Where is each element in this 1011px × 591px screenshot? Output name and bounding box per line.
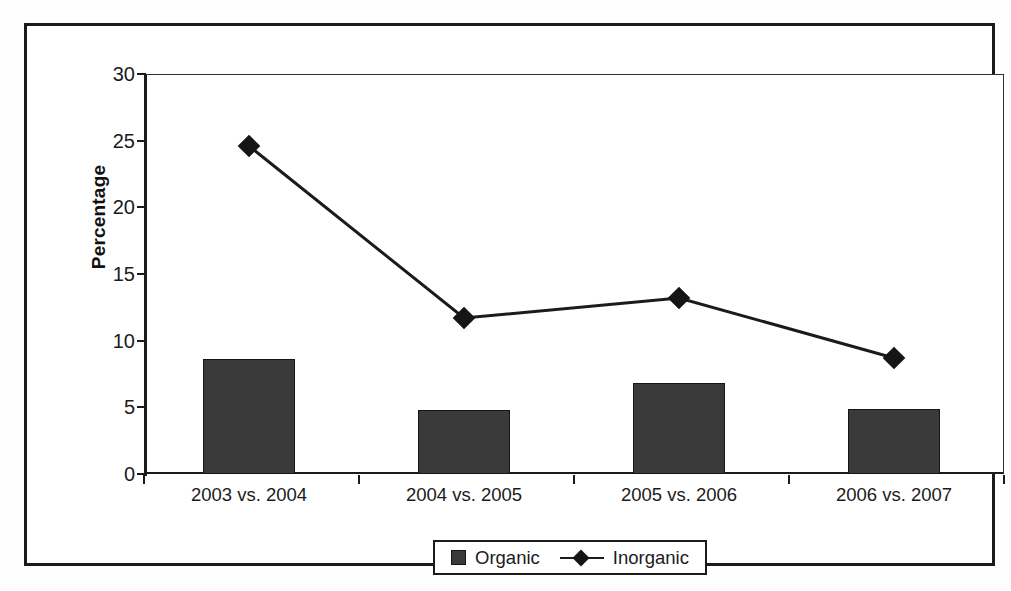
legend-item-organic[interactable]: Organic: [451, 547, 540, 569]
bar-organic-2004-vs-2005[interactable]: [418, 410, 510, 474]
x-axis-label-2003-vs-2004: 2003 vs. 2004: [191, 484, 307, 506]
legend-item-inorganic[interactable]: Inorganic: [560, 547, 689, 569]
legend-diamond-marker: [572, 549, 589, 566]
line-diamond-icon: [560, 550, 604, 566]
y-tick-label-0: 0: [87, 464, 135, 484]
legend-label-inorganic: Inorganic: [613, 547, 689, 569]
bar-organic-2006-vs-2007[interactable]: [848, 409, 940, 474]
x-tick-mark-3: [788, 475, 790, 484]
bar-organic-2005-vs-2006[interactable]: [633, 383, 725, 474]
x-tick-mark-4: [1003, 475, 1005, 484]
bar-organic-2003-vs-2004[interactable]: [203, 359, 295, 474]
chart-figure: Percentage 30 25 20 15 10 5 0: [0, 0, 1011, 591]
y-tick-label-30: 30: [87, 64, 135, 84]
legend-label-organic: Organic: [475, 547, 540, 569]
y-tick-label-15: 15: [87, 264, 135, 284]
x-axis-label-2006-vs-2007: 2006 vs. 2007: [836, 484, 952, 506]
x-tick-mark-1: [358, 475, 360, 484]
y-tick-label-20: 20: [87, 197, 135, 217]
value-axis-line: [144, 74, 147, 476]
chart-legend: Organic Inorganic: [433, 540, 707, 575]
filled-square-icon: [451, 550, 466, 565]
x-axis-label-2005-vs-2006: 2005 vs. 2006: [621, 484, 737, 506]
y-tick-label-10: 10: [87, 331, 135, 351]
x-axis-label-2004-vs-2005: 2004 vs. 2005: [406, 484, 522, 506]
figure-border: Percentage 30 25 20 15 10 5 0: [24, 23, 995, 566]
y-tick-label-5: 5: [87, 397, 135, 417]
x-tick-mark-2: [573, 475, 575, 484]
y-tick-label-25: 25: [87, 131, 135, 151]
x-tick-mark-0: [143, 475, 145, 484]
